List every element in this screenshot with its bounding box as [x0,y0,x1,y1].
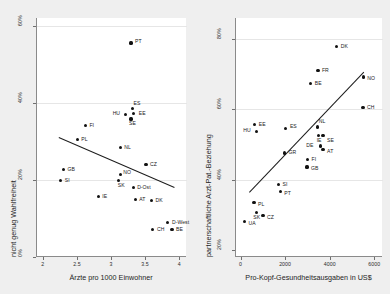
data-point-label: ES [290,123,297,129]
x-axis-tick [77,257,78,260]
data-point-label: DE [306,142,313,148]
data-point-label: ES [133,100,140,106]
y-axis-tick [33,26,36,27]
data-point [144,163,147,166]
data-point [243,220,246,223]
y-axis-tick [232,109,235,110]
data-point [119,173,122,176]
data-point-label: PL [258,201,264,207]
data-point-label: FR [322,67,329,73]
x-axis-tick-label: 2 [41,261,44,267]
y-axis-tick [33,180,36,181]
data-point-label: GR [289,149,297,155]
data-point-label: DK [156,197,163,203]
regression-line [249,72,364,193]
data-point [253,123,256,126]
data-point [119,146,122,149]
data-point [316,125,319,128]
data-point [134,198,137,201]
data-point [306,158,309,161]
data-point [305,165,308,168]
data-point-label: GB [311,165,318,171]
data-point-label: UA [248,220,255,226]
data-point-label: IE [317,137,322,143]
x-axis-tick-label: 3 [110,261,113,267]
data-point-label: HU [243,127,250,133]
chart-panel-right: DKFRNOBECHEEESNLHUIESEDEATGRFIGBSIPTPLSK… [195,0,390,294]
chart-panel-left: PTESEEHUSEFIPLNLCZGBNOSKSID-OstIEATDKD-W… [0,0,195,294]
data-point-label: NO [367,75,375,81]
data-point [316,69,319,72]
y-axis-title-left: nicht genug Wahlfreiheit [9,180,18,257]
data-point-label: EE [259,121,266,127]
data-point-label: D-Ost [137,184,151,190]
data-point [76,138,79,141]
data-point-label: AT [327,148,333,154]
data-point-label: NO [123,169,131,175]
data-point [284,127,287,130]
y-axis-tick [232,180,235,181]
data-point-label: EE [139,110,146,116]
x-axis-tick [285,257,286,260]
y-axis-tick [33,257,36,258]
data-point-label: GB [68,166,75,172]
y-axis-tick [232,39,235,40]
data-point-label: BE [176,226,183,232]
x-axis-tick-label: 4000 [324,261,336,267]
data-point-label: SI [283,181,288,187]
y-axis-tick [232,250,235,251]
data-point-label: D-West [172,219,189,225]
data-point-label: CH [367,104,374,110]
gridline-horizontal [37,103,187,104]
data-point [151,228,154,231]
data-point [131,107,134,110]
data-point [84,124,87,127]
data-point [277,183,280,186]
data-point [255,130,258,133]
data-point [279,190,282,193]
data-point [129,41,132,44]
x-axis-tick [111,257,112,260]
x-axis-tick-label: 0 [239,261,242,267]
x-axis-tick [241,257,242,260]
x-axis-tick [43,257,44,260]
data-point [309,82,312,85]
data-point [97,195,100,198]
x-axis-tick [330,257,331,260]
x-axis-tick-label: 2.5 [73,261,81,267]
data-point [252,201,255,204]
x-axis-tick-label: 3.5 [141,261,149,267]
data-point-label: DK [341,43,348,49]
figure-root: PTESEEHUSEFIPLNLCZGBNOSKSID-OstIEATDKD-W… [0,0,390,294]
data-point-label: PL [81,136,87,142]
data-point-label: IE [102,193,107,199]
x-axis-tick-label: 6000 [368,261,380,267]
y-axis-tick [33,103,36,104]
data-point [132,112,135,115]
data-point [150,199,153,202]
x-axis-tick [374,257,375,260]
data-point-label: BE [315,80,322,86]
data-point-label: SK [118,182,125,188]
data-point [261,214,264,217]
data-point-label: NL [319,118,326,124]
gridline-horizontal [236,109,383,110]
data-point-label: FI [311,156,316,162]
data-point [321,148,324,151]
data-point-label: NL [124,144,131,150]
data-point-label: HU [113,110,120,116]
data-point [362,75,365,78]
gridline-horizontal [37,26,187,27]
gridline-horizontal [236,39,383,40]
data-point [321,134,324,137]
data-point-label: FI [89,122,94,128]
data-point [132,186,135,189]
y-axis-title-right: partnerschaftliche Arzt-Pat.-Beziehung [204,134,213,257]
x-axis-tick [145,257,146,260]
data-point [283,151,286,154]
data-point-label: PT [135,38,142,44]
data-point [166,221,169,224]
data-point-label: SI [65,177,70,183]
data-point-label: PT [284,190,291,196]
x-axis-title-left: Ärzte pro 1000 Einwohner [69,273,152,282]
